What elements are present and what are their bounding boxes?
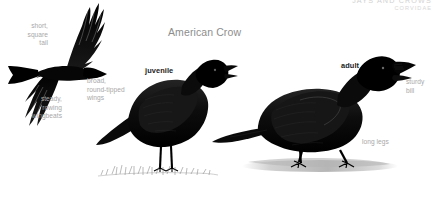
juvenile-upper-mandible [224, 65, 238, 72]
label-adult: adult [341, 61, 359, 70]
field-guide-plate: JAYS AND CROWS CORVIDAE [0, 0, 436, 213]
callout-broad-round-tipped-wings: broad, round-tipped wings [87, 77, 149, 103]
adult-eye [382, 67, 384, 69]
callout-short-square-tail: short, square tail [2, 22, 48, 48]
juvenile-leg-near [160, 146, 161, 168]
figure-adult-crow [212, 56, 416, 172]
adult-bill-upper [392, 62, 416, 74]
callout-steady-rowing-wingbeats: steady, rowing wingbeats [0, 95, 62, 121]
flight-wing-upper [66, 3, 105, 75]
adult-head [357, 56, 400, 91]
juvenile-leg-far [171, 146, 172, 168]
callout-long-legs: long legs [362, 138, 412, 147]
flight-tail [8, 66, 39, 84]
juvenile-lower-mandible [224, 74, 238, 79]
juvenile-eye [214, 69, 216, 71]
page-title: American Crow [168, 26, 241, 38]
callout-sturdy-bill: sturdy bill [406, 78, 436, 95]
adult-tibia-near [300, 151, 301, 163]
label-juvenile: juvenile [145, 66, 173, 75]
